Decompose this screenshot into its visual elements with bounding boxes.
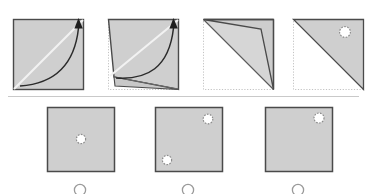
fold-step-3-figure	[198, 14, 282, 96]
answer-option-b-figure[interactable]	[152, 104, 226, 176]
fold-step-1	[8, 14, 92, 96]
hole-center	[76, 134, 85, 143]
paper-triangle	[294, 20, 364, 90]
fold-step-3	[198, 14, 282, 96]
paper-folding-question	[0, 0, 367, 194]
hole-top-right	[314, 113, 324, 123]
answer-option-c[interactable]	[262, 104, 336, 176]
fold-step-4-figure	[288, 14, 367, 96]
answer-option-c-radio[interactable]	[290, 182, 306, 194]
fold-step-4	[288, 14, 367, 96]
punched-hole	[340, 27, 351, 38]
answer-option-b[interactable]	[152, 104, 226, 176]
section-divider	[8, 96, 359, 97]
answer-option-a-figure[interactable]	[44, 104, 118, 176]
fold-step-2-figure	[103, 14, 187, 96]
radio-circle-icon[interactable]	[72, 182, 88, 194]
hole-bottom-left	[162, 155, 171, 164]
radio-circle-icon[interactable]	[180, 182, 196, 194]
hole-top-right	[203, 114, 213, 124]
answer-option-a[interactable]	[44, 104, 118, 176]
answer-option-c-figure[interactable]	[262, 104, 336, 176]
radio-circle-icon[interactable]	[290, 182, 306, 194]
answer-option-b-radio[interactable]	[180, 182, 196, 194]
fold-step-2	[103, 14, 187, 96]
answer-option-a-radio[interactable]	[72, 182, 88, 194]
fold-step-1-figure	[8, 14, 92, 96]
